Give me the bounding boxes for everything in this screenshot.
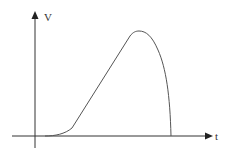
x-axis-arrow-icon (205, 133, 213, 140)
x-axis (12, 133, 213, 140)
y-axis (32, 11, 39, 148)
velocity-time-diagram: V t (0, 0, 228, 155)
y-axis-arrow-icon (32, 11, 39, 19)
x-axis-label: t (215, 130, 218, 142)
y-axis-label: V (44, 11, 52, 23)
velocity-curve (45, 31, 171, 136)
